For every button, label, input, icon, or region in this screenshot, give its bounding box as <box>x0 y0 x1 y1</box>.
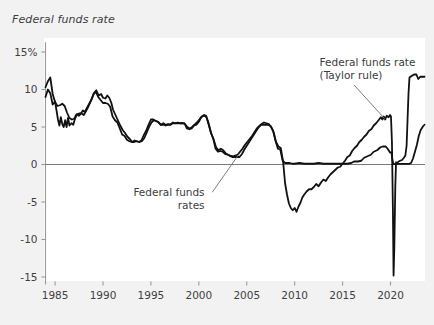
x-tick-label: 2005 <box>233 289 260 301</box>
x-tick-label: 2020 <box>377 289 404 301</box>
data-series-group <box>46 75 425 276</box>
series-line <box>46 75 425 276</box>
y-tick-label: -5 <box>27 196 37 208</box>
y-tick-label: 10 <box>24 83 37 95</box>
series-line <box>46 78 425 165</box>
chart-svg: 15%1050-5-10-15 198519901995200020052010… <box>0 0 434 325</box>
y-tick-label: 0 <box>31 158 38 170</box>
x-tick-label: 2000 <box>185 289 212 301</box>
annotation-leader-line <box>354 85 385 119</box>
y-tick-label: -10 <box>20 233 37 245</box>
y-tick-label: -15 <box>20 271 37 283</box>
annotation-label: (Taylor rule) <box>320 69 383 81</box>
x-axis-ticks: 19851990199520002005201020152020 <box>42 282 404 301</box>
x-tick-label: 1995 <box>138 289 165 301</box>
annotation-leader-line <box>212 154 239 192</box>
y-tick-label: 5 <box>31 121 38 133</box>
annotation-label: rates <box>178 199 205 211</box>
y-axis-ticks: 15%1050-5-10-15 <box>14 46 45 283</box>
x-tick-label: 1990 <box>90 289 117 301</box>
annotation-label: Federal funds rate <box>320 56 416 68</box>
x-tick-label: 1985 <box>42 289 69 301</box>
chart-figure: Federal funds rate 15%1050-5-10-15 19851… <box>0 0 434 325</box>
x-tick-label: 2010 <box>281 289 308 301</box>
y-tick-label: 15% <box>14 46 37 58</box>
x-tick-label: 2015 <box>329 289 356 301</box>
annotation-label: Federal funds <box>133 186 204 198</box>
